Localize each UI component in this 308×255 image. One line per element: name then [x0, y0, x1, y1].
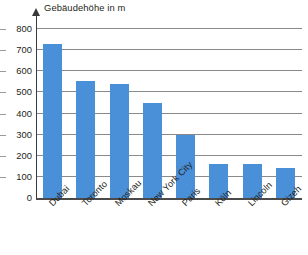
- plot-area: [36, 29, 302, 198]
- y-axis-tick-labels: 0100200300400500600700800: [0, 0, 32, 255]
- bar: [110, 84, 129, 198]
- y-axis-stub-tick: [0, 177, 6, 178]
- y-axis-stub-tick: [0, 92, 6, 93]
- gridline: [36, 70, 302, 71]
- y-axis-tick-label: 0: [4, 193, 32, 203]
- y-axis-stub-tick: [0, 50, 6, 51]
- gridline: [36, 28, 302, 29]
- y-axis-stub-tick: [0, 135, 6, 136]
- axis-title: Gebäudehöhe in m: [44, 2, 125, 13]
- y-axis-tick-label: 100: [4, 172, 32, 182]
- y-axis-tick-label: 300: [4, 130, 32, 140]
- y-axis-tick-label: 200: [4, 151, 32, 161]
- bar: [43, 44, 62, 198]
- bar: [143, 103, 162, 198]
- y-axis-stub-tick: [0, 114, 6, 115]
- bar: [76, 81, 95, 198]
- up-arrow-icon: [32, 8, 40, 16]
- bar-chart: Gebäudehöhe in m 01002003004005006007008…: [0, 0, 308, 255]
- y-axis-stub-tick: [0, 71, 6, 72]
- y-axis-tick-label: 500: [4, 87, 32, 97]
- y-axis-tick-label: 600: [4, 66, 32, 76]
- y-axis-stub-tick: [0, 156, 6, 157]
- y-axis-tick-label: 800: [4, 24, 32, 34]
- y-axis-tick-label: 700: [4, 45, 32, 55]
- y-axis-line: [36, 14, 37, 199]
- y-axis-tick-label: 400: [4, 109, 32, 119]
- gridline: [36, 49, 302, 50]
- y-axis-stub-tick: [0, 29, 6, 30]
